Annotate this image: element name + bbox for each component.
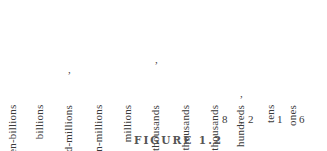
label-millions: millions	[122, 105, 133, 143]
label-hundred-millions: hundred-millions	[63, 105, 74, 151]
label-ones: ones	[287, 105, 298, 126]
digit-tens: 1	[277, 113, 283, 125]
label-tens: tens	[265, 105, 276, 124]
digit-comma: ,	[240, 113, 243, 125]
comma-separator: ,	[68, 64, 71, 75]
label-ten-millions: ten-millions	[93, 105, 104, 151]
label-hundreds: hundreds	[235, 105, 246, 147]
digit-ones: 6	[299, 113, 305, 125]
digit-hundreds: 2	[248, 113, 254, 125]
comma-separator: ,	[155, 54, 158, 65]
label-billions: billions	[34, 105, 45, 140]
comma-separator: ,	[240, 88, 243, 99]
digit-thousands: 8	[222, 113, 228, 125]
label-ten-billions: ten-billions	[7, 105, 18, 151]
figure-caption: FIGURE 1.2	[134, 134, 223, 146]
